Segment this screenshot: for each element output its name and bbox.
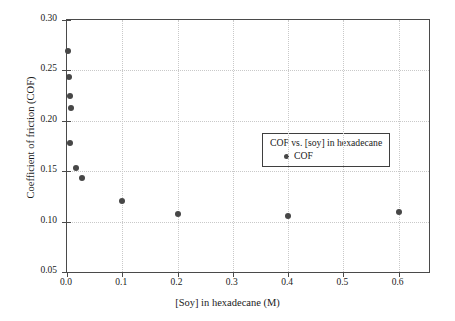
x-axis-tick-label: 0.5 — [336, 277, 348, 287]
gridline-vertical — [288, 20, 289, 272]
data-point — [119, 198, 125, 204]
x-axis-tick-label: 0.1 — [115, 277, 127, 287]
data-point — [67, 140, 73, 146]
x-axis-tick-label: 0.6 — [392, 277, 404, 287]
y-axis-tick-inner — [67, 222, 71, 223]
gridline-vertical — [343, 20, 344, 272]
data-point — [396, 209, 402, 215]
y-axis-tick-label: 0.05 — [0, 265, 57, 275]
y-axis-tick-label: 0.25 — [0, 63, 57, 73]
data-point — [66, 74, 72, 80]
data-point — [67, 93, 73, 99]
data-point — [65, 48, 71, 54]
chart-figure: COF vs. [soy] in hexadecane COF [Soy] in… — [0, 0, 455, 321]
y-axis-tick-label: 0.15 — [0, 164, 57, 174]
gridline-vertical — [178, 20, 179, 272]
data-point — [79, 175, 85, 181]
x-axis-tick-label: 0.2 — [171, 277, 183, 287]
legend-item-cof: COF — [270, 150, 382, 162]
data-point — [68, 105, 74, 111]
plot-area: COF vs. [soy] in hexadecane COF — [66, 19, 430, 273]
data-point — [285, 213, 291, 219]
gridline-vertical — [399, 20, 400, 272]
gridline-vertical — [233, 20, 234, 272]
x-axis-title: [Soy] in hexadecane (M) — [0, 297, 455, 308]
y-axis-tick-label: 0.10 — [0, 215, 57, 225]
x-axis-tick-label: 0.3 — [226, 277, 238, 287]
y-axis-tick-inner — [67, 20, 71, 21]
y-axis-tick-label: 0.30 — [0, 13, 57, 23]
x-axis-tick-label: 0.4 — [281, 277, 293, 287]
legend-title: COF vs. [soy] in hexadecane — [270, 137, 382, 149]
y-axis-tick-inner — [67, 121, 71, 122]
y-axis-tick-label: 0.20 — [0, 114, 57, 124]
y-axis-tick-inner — [67, 70, 71, 71]
x-axis-tick-label: 0.0 — [60, 277, 72, 287]
data-point — [73, 165, 79, 171]
chart-legend: COF vs. [soy] in hexadecane COF — [262, 133, 390, 167]
y-axis-tick-inner — [67, 171, 71, 172]
gridline-vertical — [122, 20, 123, 272]
data-point — [175, 211, 181, 217]
legend-item-label: COF — [294, 150, 313, 162]
